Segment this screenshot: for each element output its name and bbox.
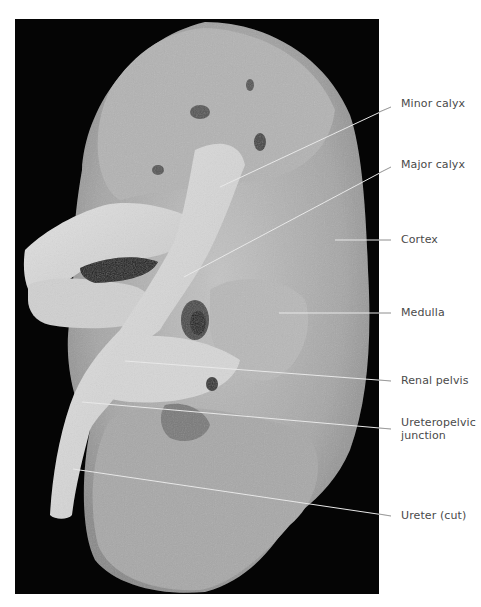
label-cortex: Cortex (401, 233, 438, 246)
label-ureteropelvic-junction: Ureteropelvic junction (401, 416, 476, 442)
leader-tail (379, 167, 391, 173)
label-ureteropelvic-line2: junction (401, 429, 476, 442)
leader-line-tails (379, 107, 391, 516)
leader-tail (379, 514, 391, 516)
label-ureteropelvic-line1: Ureteropelvic (401, 416, 476, 429)
calyx-opening (254, 133, 266, 151)
label-renal-pelvis: Renal pelvis (401, 374, 469, 387)
calyx-opening (152, 165, 164, 175)
label-medulla: Medulla (401, 306, 445, 319)
leader-tail (379, 428, 391, 429)
calyx-opening (190, 311, 206, 335)
leader-tail (379, 380, 391, 381)
leader-tail (379, 107, 391, 112)
label-ureter-cut: Ureter (cut) (401, 509, 466, 522)
label-minor-calyx: Minor calyx (401, 97, 465, 110)
calyx-opening (246, 79, 254, 91)
calyx-opening (190, 105, 210, 119)
calyx-opening (206, 377, 218, 391)
label-major-calyx: Major calyx (401, 158, 465, 171)
